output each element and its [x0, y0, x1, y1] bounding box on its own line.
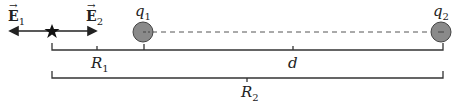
- label-q1: q1: [135, 4, 151, 22]
- label-d: d: [288, 56, 298, 71]
- diagram-graphics: [0, 0, 459, 108]
- label-r2: R2: [241, 85, 259, 103]
- label-q2: q2: [433, 4, 449, 22]
- diagram: →E1 →E2 q1 q2 R1 d R2: [0, 0, 459, 108]
- label-r1: R1: [91, 56, 109, 74]
- bracket-r1-d: [52, 43, 443, 50]
- bracket-r2: [52, 71, 443, 82]
- label-e1: →E1: [8, 9, 25, 27]
- label-e2: →E2: [86, 9, 103, 27]
